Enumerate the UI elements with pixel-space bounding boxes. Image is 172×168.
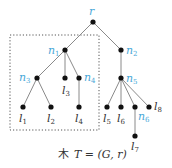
- edge-r-n2: [93, 22, 121, 50]
- label-n3: n3: [19, 71, 31, 85]
- edge-n5-l5: [107, 78, 121, 107]
- node-l7: [132, 133, 137, 138]
- node-l3: [62, 75, 67, 80]
- node-n2: [118, 47, 123, 52]
- label-l7: l7: [131, 140, 139, 154]
- label-n2: n2: [126, 44, 138, 58]
- label-l6: l6: [117, 112, 126, 126]
- node-n6: [132, 104, 137, 109]
- node-r: [90, 19, 95, 24]
- label-n1: n1: [48, 44, 60, 58]
- node-l1: [20, 104, 25, 109]
- label-n4: n4: [84, 71, 96, 85]
- node-l6: [118, 104, 123, 109]
- node-l2: [48, 104, 53, 109]
- node-n5: [118, 75, 123, 80]
- edge-n3-l2: [37, 78, 51, 107]
- label-l4: l4: [75, 112, 84, 126]
- node-l4: [76, 104, 81, 109]
- label-l3: l3: [62, 84, 70, 98]
- edge-r-n1: [65, 22, 93, 50]
- caption-kanji: 木: [58, 148, 69, 161]
- label-l1: l1: [19, 112, 27, 126]
- label-l5: l5: [103, 112, 111, 126]
- node-n3: [34, 75, 39, 80]
- internal-labels: r n1 n2 n3 n4 n5 n6: [19, 5, 150, 124]
- node-l8: [146, 104, 151, 109]
- node-l5: [104, 104, 109, 109]
- label-r: r: [89, 5, 95, 18]
- node-n4: [76, 75, 81, 80]
- label-l8: l8: [154, 100, 162, 114]
- label-n5: n5: [126, 72, 138, 86]
- caption: 木T = (G, r): [58, 148, 127, 161]
- edge-n1-n4: [65, 50, 79, 78]
- label-l2: l2: [47, 112, 55, 126]
- caption-formula: T = (G, r): [74, 148, 127, 161]
- label-n6: n6: [138, 110, 150, 124]
- node-n1: [62, 47, 67, 52]
- tree-diagram: r n1 n2 n3 n4 n5 n6 l1 l2 l3 l4 l5 l6 l7…: [0, 0, 172, 168]
